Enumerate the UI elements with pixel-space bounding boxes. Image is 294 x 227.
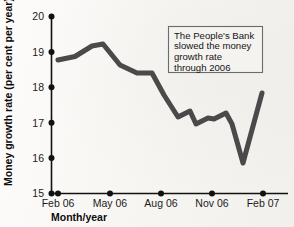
y-axis-tick-labels: 20 19 18 17 16 15 [32, 10, 44, 199]
y-tick-label-18: 18 [32, 81, 44, 93]
x-tick-label-aug06: Aug 06 [144, 197, 177, 209]
x-tick-label-feb07: Feb 07 [247, 197, 280, 209]
x-tick-dot-nov06 [209, 191, 215, 197]
y-tick-dot-18 [49, 84, 55, 90]
x-axis-tick-labels: Feb 06 May 06 Aug 06 Nov 06 Feb 07 [42, 197, 280, 209]
y-tick-label-19: 19 [32, 46, 44, 58]
x-tick-dot-may06 [107, 191, 113, 197]
y-tick-dot-20 [49, 14, 55, 20]
chart-figure: 20 19 18 17 16 15 Feb 06 May 06 Aug 06 N… [0, 0, 294, 227]
x-tick-dot-feb07 [260, 191, 266, 197]
annotation-line-1: The People's Bank [174, 30, 254, 41]
line-chart: 20 19 18 17 16 15 Feb 06 May 06 Aug 06 N… [0, 0, 294, 227]
x-tick-label-may06: May 06 [93, 197, 128, 209]
y-tick-dot-15 [49, 191, 55, 197]
x-tick-dot-feb06 [55, 191, 61, 197]
x-tick-label-nov06: Nov 06 [195, 197, 228, 209]
annotation-callout: The People's Bank slowed the money growt… [169, 27, 263, 73]
y-tick-label-17: 17 [32, 117, 44, 129]
y-tick-label-16: 16 [32, 152, 44, 164]
x-tick-dot-aug06 [158, 191, 164, 197]
annotation-line-3: growth rate [174, 51, 222, 62]
y-tick-dot-16 [49, 155, 55, 161]
y-tick-dot-17 [49, 120, 55, 126]
x-tick-label-feb06: Feb 06 [42, 197, 75, 209]
annotation-line-2: slowed the money [174, 40, 252, 51]
y-axis-title: Money growth rate (per cent per year) [2, 0, 14, 186]
x-axis-title: Month/year [51, 211, 107, 223]
annotation-line-4: through 2006 [174, 62, 231, 73]
y-tick-dot-19 [49, 49, 55, 55]
y-tick-label-20: 20 [32, 10, 44, 22]
